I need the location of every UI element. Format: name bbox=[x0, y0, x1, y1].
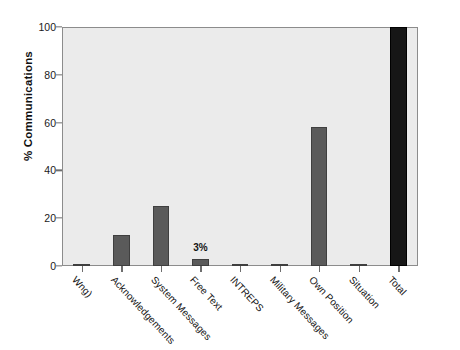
y-tick-label: 100 bbox=[22, 21, 56, 33]
x-tick-label: Total bbox=[386, 274, 409, 297]
x-tick-mark bbox=[319, 266, 320, 272]
x-tick-label: Free Text bbox=[188, 274, 225, 313]
x-tick-mark bbox=[280, 266, 281, 272]
x-tick-mark bbox=[121, 266, 122, 272]
x-tick-mark bbox=[240, 266, 241, 272]
x-tick-label: Wng) bbox=[70, 274, 95, 299]
x-tick-mark bbox=[161, 266, 162, 272]
x-tick-label: Situation bbox=[347, 274, 382, 311]
plot-area bbox=[62, 27, 418, 266]
x-tick-mark bbox=[82, 266, 83, 272]
x-tick-mark bbox=[398, 266, 399, 272]
y-tick-label: 40 bbox=[22, 164, 56, 176]
y-tick-label: 60 bbox=[22, 117, 56, 129]
x-tick-mark bbox=[359, 266, 360, 272]
x-tick-label: INTREPS bbox=[228, 274, 266, 314]
y-tick-label: 20 bbox=[22, 212, 56, 224]
y-tick-label: 80 bbox=[22, 69, 56, 81]
y-tick-label: 0 bbox=[22, 260, 56, 272]
x-tick-mark bbox=[200, 266, 201, 272]
bar-chart-figure: % Communications 020406080100 3% Wng)Ack… bbox=[0, 0, 460, 350]
